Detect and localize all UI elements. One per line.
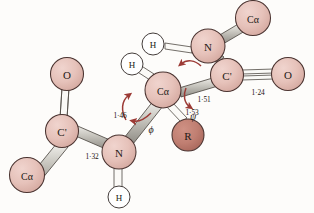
bond-tube [242, 69, 274, 74]
atom-h-top: H [142, 33, 164, 55]
atom-label: H [150, 40, 157, 50]
bond-length-c-n-left: 1·32 [85, 152, 99, 161]
molecule-canvas: O C' Cα N H Cα [0, 0, 314, 213]
atom-label: R [184, 130, 192, 142]
atom-label: Cα [247, 14, 260, 25]
bond-ntop-htop [165, 43, 192, 53]
atom-label: C' [57, 126, 66, 138]
bond-tube [242, 75, 274, 80]
atom-ca-center: Cα [145, 72, 181, 108]
bond-cprimeright-oright-double [242, 69, 274, 80]
phi-angle-label: ϕ [148, 124, 153, 135]
atom-label: N [204, 41, 212, 53]
bond-tube [165, 43, 192, 53]
atom-o-left: O [51, 58, 84, 91]
atom-n-bottom: N [102, 135, 136, 169]
atom-h-center: H [121, 53, 143, 75]
atom-r-group: R [172, 119, 204, 151]
atom-label: O [63, 69, 71, 81]
bond-length-c-o: 1·24 [251, 88, 265, 97]
atom-c-prime-left: C' [46, 115, 79, 148]
atom-h-bottom: H [108, 186, 130, 208]
atom-n-top: N [191, 29, 225, 63]
atom-ca-top-right: Cα [236, 1, 271, 36]
atom-o-right: O [272, 58, 305, 91]
bond-length-n-ca: 1·46 [113, 111, 127, 120]
atom-label: O [284, 69, 292, 81]
atom-c-prime-right: C' [211, 59, 244, 92]
atom-label: C' [222, 70, 231, 82]
molecular-diagram-figure: O C' Cα N H Cα [0, 0, 314, 213]
atom-label: H [116, 193, 123, 203]
atom-label: Cα [21, 171, 34, 182]
psi-angle-label: ψ [190, 111, 197, 122]
atom-label: N [115, 147, 123, 159]
psi-rotation-arrow-upper [181, 61, 201, 66]
bond-length-ca-c: 1·51 [197, 95, 211, 104]
atom-label: Cα [157, 86, 170, 97]
atom-group: O C' Cα N H Cα [10, 1, 305, 209]
atom-label: H [129, 60, 136, 70]
atom-ca-bottom-left: Cα [10, 158, 45, 193]
